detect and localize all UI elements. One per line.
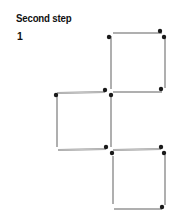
matchstick-head-icon [162,151,166,155]
matchstick-head-icon [160,205,164,209]
matchstick-head-icon [104,145,108,149]
matchstick-head-icon [110,151,114,155]
matchsticks [57,33,165,209]
matchstick-head-icon [158,29,162,33]
matchstick-head-icon [54,93,58,97]
matchstick-head-icon [107,35,111,39]
matchstick-figure [0,0,193,215]
matchstick-head-icon [162,35,166,39]
matchstick-head-icon [159,145,163,149]
matchstick-head-icon [109,93,113,97]
matchstick-head-icon [159,87,163,91]
matchstick-head-icon [103,88,107,92]
